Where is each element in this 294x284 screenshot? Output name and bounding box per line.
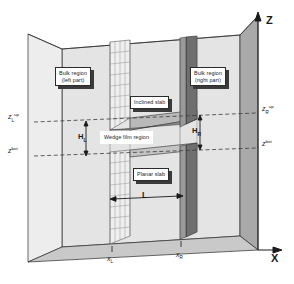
zL-up-sup: up [14, 112, 19, 117]
x-tick-left: xL [107, 255, 113, 264]
lower-right-slab-side [180, 145, 186, 239]
z-tick-left-bot: zbot [8, 146, 18, 154]
bulk-left-line2: (left part) [59, 77, 87, 83]
upper-right-slab-side [180, 37, 186, 127]
HL-sub: L [83, 137, 86, 143]
diagram-canvas: Bulk region (left part) Bulk region (rig… [0, 0, 294, 284]
callout-bulk-region-left: Bulk region (left part) [55, 67, 91, 86]
inclined-slab-line1: Inclined slab [134, 99, 165, 105]
callout-bulk-region-right: Bulk region (right part) [190, 67, 226, 86]
z-axis-label: Z [266, 14, 273, 26]
zR-up-sup: up [269, 104, 274, 109]
xR-sub: R [180, 255, 183, 260]
x-axis [258, 247, 282, 253]
height-left-label: HL [78, 132, 87, 143]
planar-slab-line1: Planar slab [137, 171, 165, 177]
bulk-left-line1: Bulk region [59, 70, 87, 76]
callout-planar-slab: Planar slab [133, 168, 169, 181]
length-label: L [142, 190, 147, 200]
callout-inclined-slab: Inclined slab [130, 96, 169, 109]
bulk-right-line1: Bulk region [194, 70, 222, 76]
zL-up-sub: L [12, 118, 15, 123]
zR-bot-sup: bot [266, 139, 272, 144]
right-wall [240, 16, 258, 250]
bulk-right-line2: (right part) [194, 77, 222, 83]
z-tick-right-up: zRup [262, 104, 274, 115]
zR-up-sub: R [266, 110, 269, 115]
xL-sub: L [111, 259, 114, 264]
callout-wedge-film-region: Wedge film region [100, 131, 153, 144]
z-tick-left-up: zLup [8, 112, 19, 123]
HR-sub: R [197, 131, 201, 137]
lower-right-slab [186, 143, 197, 237]
x-tick-right: xR [176, 251, 183, 260]
height-right-label: HR [192, 126, 201, 137]
z-tick-right-bot: zbot [262, 139, 272, 147]
wedge-film-line1: Wedge film region [104, 134, 149, 140]
zL-bot-sup: bot [12, 146, 18, 151]
x-axis-label: X [271, 252, 278, 264]
